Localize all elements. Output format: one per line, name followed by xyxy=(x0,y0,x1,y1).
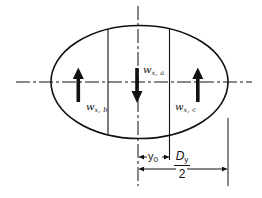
fraction-bar xyxy=(174,165,190,166)
fraction-denominator: 2 xyxy=(174,168,190,180)
diagram-drawing xyxy=(0,0,262,198)
load-label-b: wx, b xyxy=(86,97,108,114)
load-label-c: wx, c xyxy=(175,97,196,114)
half-width-dimension-label: Dy 2 xyxy=(174,150,190,180)
load-arrow-a-down-icon xyxy=(132,68,143,103)
diagram-canvas: wx, a wx, b wx, c y0 Dy 2 xyxy=(0,0,262,198)
load-arrow-b-up-icon xyxy=(73,68,84,103)
fraction-numerator: Dy xyxy=(174,150,190,164)
load-label-a: wx, a xyxy=(143,60,164,77)
offset-dimension-label: y0 xyxy=(148,151,158,164)
